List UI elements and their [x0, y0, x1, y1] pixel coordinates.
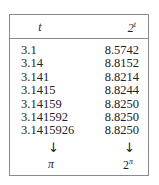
values-table: t 2t 3.18.5742 3.148.8152 3.1418.8214 3.… — [9, 14, 149, 176]
cell-value: 8.8214 — [105, 71, 139, 84]
limit-2-to-pi: 2π — [123, 157, 133, 173]
header-exponent: t — [134, 20, 136, 29]
header-2-to-t: 2t — [128, 20, 136, 36]
table-row: 3.1418.8214 — [10, 71, 148, 84]
cell-t: 3.141 — [21, 71, 49, 84]
table-row: 3.14159268.8250 — [10, 124, 148, 137]
cell-t: 3.1415926 — [21, 124, 74, 137]
cell-value: 8.8152 — [105, 57, 139, 70]
cell-value: 8.8250 — [105, 98, 139, 111]
table-row: 3.1415928.8250 — [10, 111, 148, 124]
table-body: 3.18.5742 3.148.8152 3.1418.8214 3.14158… — [10, 44, 148, 138]
cell-t: 3.1 — [21, 44, 37, 57]
cell-t: 3.14 — [21, 57, 43, 70]
table-header: t 2t — [10, 15, 148, 39]
down-arrow-icon: ↓ — [124, 140, 135, 155]
cell-value: 8.8244 — [105, 84, 139, 97]
table-row: 3.14158.8244 — [10, 84, 148, 97]
table-row: 3.148.8152 — [10, 57, 148, 70]
table-row: 3.18.5742 — [10, 44, 148, 57]
down-arrow-icon: ↓ — [48, 140, 59, 155]
cell-value: 8.5742 — [105, 44, 139, 57]
limit-exponent: π — [129, 157, 133, 166]
cell-t: 3.1415 — [21, 84, 55, 97]
cell-t: 3.141592 — [21, 111, 68, 124]
limit-row: ↓ ↓ π 2π — [10, 140, 148, 176]
cell-value: 8.8250 — [105, 111, 139, 124]
cell-value: 8.8250 — [105, 124, 139, 137]
limit-pi: π — [48, 157, 54, 172]
cell-t: 3.14159 — [21, 98, 62, 111]
header-t: t — [10, 20, 70, 35]
table-row: 3.141598.8250 — [10, 98, 148, 111]
